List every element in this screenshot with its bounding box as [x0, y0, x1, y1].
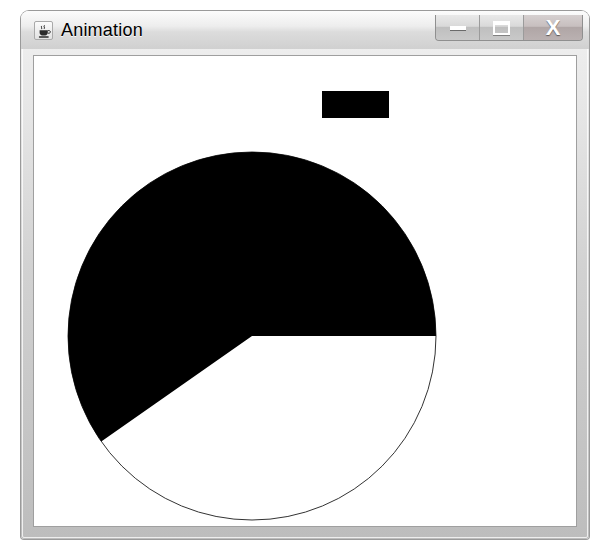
close-icon: X: [546, 17, 561, 39]
pie-filled-wedge: [68, 152, 436, 442]
close-button[interactable]: X: [524, 15, 582, 40]
minimize-button[interactable]: [436, 15, 480, 40]
black-rectangle: [322, 91, 389, 118]
animation-graphics: [34, 56, 576, 526]
java-coffee-cup-icon: [34, 21, 53, 40]
canvas-panel[interactable]: [33, 55, 577, 527]
maximize-icon: [493, 21, 510, 35]
maximize-button[interactable]: [480, 15, 524, 40]
screen-root: Animation X: [0, 0, 608, 560]
minimize-icon: [450, 26, 466, 30]
animation-canvas: [34, 56, 576, 526]
animation-window: Animation X: [21, 11, 589, 539]
window-title: Animation: [61, 18, 143, 42]
title-bar[interactable]: Animation X: [21, 11, 589, 49]
window-controls: X: [435, 15, 583, 41]
